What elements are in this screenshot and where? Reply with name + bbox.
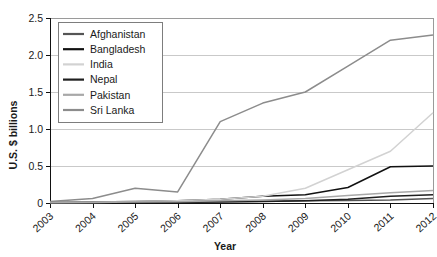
legend-label-bangladesh: Bangladesh	[90, 43, 146, 55]
y-tick-label: 2.0	[28, 49, 43, 61]
x-tick-label: 2006	[158, 209, 184, 234]
y-tick-labels: 00.51.01.52.02.5	[28, 12, 50, 209]
x-tick-label: 2010	[328, 209, 354, 234]
x-tick-label: 2012	[413, 209, 437, 234]
y-tick-label: 0.5	[28, 160, 43, 172]
series-line-india	[50, 113, 433, 203]
x-tick-label: 2007	[200, 209, 226, 234]
legend-label-afghanistan: Afghanistan	[90, 28, 146, 40]
y-tick-label: 1.0	[28, 123, 43, 135]
x-tick-labels: 2003200420052006200720082009201020112012	[30, 209, 437, 234]
legend-label-pakistan: Pakistan	[90, 89, 130, 101]
x-tick-label: 2008	[243, 209, 269, 234]
legend: AfghanistanBangladeshIndiaNepalPakistanS…	[59, 23, 163, 123]
legend-label-india: India	[90, 58, 113, 70]
x-axis-title: Year	[214, 240, 236, 252]
y-tick-label: 2.5	[28, 12, 43, 24]
y-tick-label: 0	[37, 197, 43, 209]
x-tick-label: 2011	[371, 209, 396, 233]
y-tick-label: 1.5	[28, 86, 43, 98]
legend-label-sri-lanka: Sri Lanka	[90, 104, 135, 116]
y-axis-title: U.S. $ billions	[7, 100, 19, 169]
line-chart: 00.51.01.52.02.5 20032004200520062007200…	[0, 0, 437, 257]
x-tick-label: 2005	[115, 209, 141, 234]
x-tick-label: 2004	[73, 209, 99, 234]
x-tick-label: 2003	[30, 209, 56, 234]
x-tick-label: 2009	[285, 209, 311, 234]
legend-label-nepal: Nepal	[90, 73, 117, 85]
chart-container: 00.51.01.52.02.5 20032004200520062007200…	[0, 0, 437, 257]
